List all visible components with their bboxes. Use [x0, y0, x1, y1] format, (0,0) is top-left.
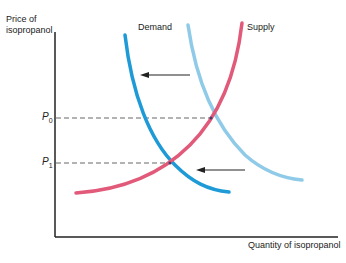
lower-shift-arrow	[196, 167, 245, 173]
upper-shift-arrow	[140, 72, 190, 78]
equilibrium-point-1	[169, 162, 172, 165]
p0-label: P0	[42, 111, 53, 124]
supply-curve	[76, 23, 242, 193]
x-axis-label: Quantity of isopropanol	[248, 240, 341, 251]
demand-label: Demand	[138, 22, 172, 33]
supply-label: Supply	[247, 22, 275, 33]
supply-demand-diagram	[0, 0, 346, 263]
original-demand-curve	[188, 25, 302, 180]
p1-label: P1	[42, 156, 53, 169]
equilibrium-point-0	[210, 117, 213, 120]
y-axis-label: Price of isopropanol	[6, 14, 53, 36]
